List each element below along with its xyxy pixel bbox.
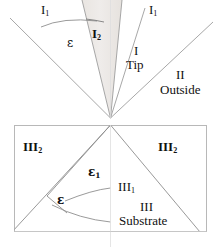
label-region-iii: III [140,200,153,213]
label-region-i-name: Tip [126,58,144,71]
tip-substrate-diagram: I1 I1 I2 ε I Tip II Outside III2 III2 ε1… [0,0,222,247]
label-epsilon-bottom: ε [57,194,64,206]
epsilon1-arc [65,188,111,201]
label-region-i: I [134,44,138,57]
label-epsilon-top: ε [67,37,73,49]
label-region-ii: II [176,68,185,81]
label-iii1: III1 [118,180,135,193]
label-i1-right: I1 [149,3,157,16]
label-iii2-left: III2 [23,140,42,153]
lower-line-left-inner [47,125,111,196]
diagram-canvas [0,0,222,247]
label-i2: I2 [92,27,101,40]
label-i1-left: I1 [41,3,49,16]
label-region-iii-name: Substrate [119,214,167,227]
label-iii2-right: III2 [158,140,177,153]
label-region-ii-name: Outside [160,83,200,96]
label-epsilon-1: ε1 [88,166,100,178]
